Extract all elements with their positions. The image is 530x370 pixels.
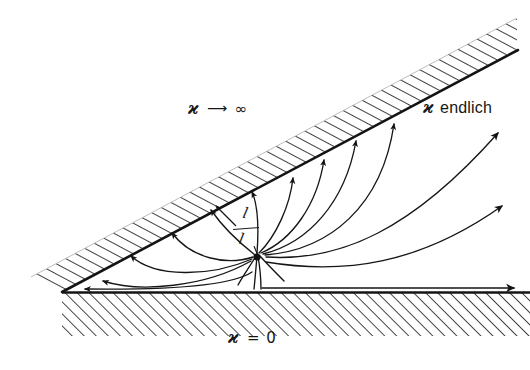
label-kappa-finite: ϰ endlich: [423, 100, 492, 116]
fraction-denominator: l: [238, 232, 245, 248]
source-fan-stroke-4: [260, 256, 284, 281]
bottom-wall: [62, 293, 530, 337]
streamline-diagram-svg: [0, 0, 530, 370]
equals-sign: =: [245, 329, 262, 347]
streamline-to-vertex-upper: [103, 261, 251, 287]
source-fan-stroke-1: [254, 256, 257, 289]
streamline-to-vertex-lower: [85, 272, 252, 289]
kappa-symbol: ϰ: [423, 98, 436, 117]
infinity-symbol: ∞: [235, 100, 248, 118]
label-kappa-finite-text: endlich: [440, 99, 492, 116]
streamline-to-inclined-wall-5: [259, 178, 293, 253]
label-kappa-equals-zero: ϰ = 0: [228, 330, 276, 346]
kappa-symbol: ϰ: [188, 99, 201, 118]
fraction-annotation: l l: [233, 206, 263, 250]
fraction-bar: [233, 227, 259, 230]
fraction-numerator: l: [241, 206, 249, 222]
source-fan-stroke-2: [258, 256, 261, 289]
label-kappa-approaches-infinity: ϰ ⟶ ∞: [188, 101, 247, 117]
right-arrow-icon: ⟶: [205, 100, 230, 116]
figure-canvas: ϰ ⟶ ∞ ϰ endlich ϰ = 0 l l: [0, 0, 530, 370]
bottom-wall-hatching: [62, 293, 530, 336]
zero-value: 0: [266, 329, 276, 347]
inclined-wall-band-edge: [31, 19, 515, 277]
kappa-symbol: ϰ: [228, 328, 241, 347]
